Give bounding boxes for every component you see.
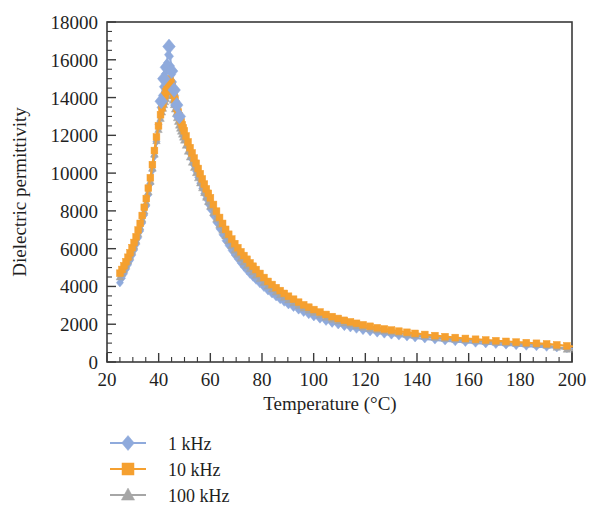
x-tick-label: 20 (98, 369, 117, 390)
legend-label: 10 kHz (168, 460, 221, 480)
x-tick-label: 100 (299, 369, 328, 390)
y-tick-label: 18000 (51, 12, 99, 33)
x-tick-label: 200 (558, 369, 587, 390)
legend-label: 1 kHz (168, 434, 212, 454)
dielectric-permittivity-chart: 0200040006000800010000120001400016000180… (0, 0, 601, 511)
y-tick-label: 16000 (51, 50, 99, 71)
x-tick-label: 160 (454, 369, 483, 390)
y-tick-label: 2000 (60, 314, 98, 335)
x-tick-label: 180 (506, 369, 535, 390)
x-tick-label: 80 (253, 369, 272, 390)
x-axis-title: Temperature (°C) (263, 393, 396, 415)
legend-label: 100 kHz (168, 486, 230, 506)
x-tick-label: 40 (149, 369, 168, 390)
y-tick-label: 4000 (60, 276, 98, 297)
legend-marker-square (122, 463, 134, 475)
y-tick-label: 6000 (60, 239, 98, 260)
y-tick-label: 8000 (60, 201, 98, 222)
y-axis-title: Dielectric permittivity (9, 107, 30, 277)
y-tick-label: 14000 (51, 88, 99, 109)
x-tick-label: 120 (351, 369, 380, 390)
chart-figure: 0200040006000800010000120001400016000180… (0, 0, 601, 511)
x-tick-label: 60 (201, 369, 220, 390)
y-tick-label: 12000 (51, 125, 99, 146)
y-tick-label: 10000 (51, 163, 99, 184)
x-tick-label: 140 (403, 369, 432, 390)
